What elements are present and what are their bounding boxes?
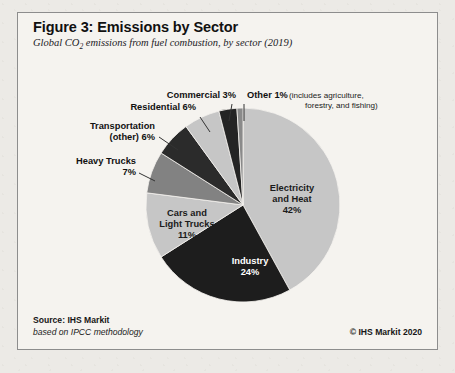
source-note: Source: IHS Markit: [33, 315, 109, 325]
slice-label: Residential 6%: [130, 102, 196, 112]
copyright-note: © IHS Markit 2020: [350, 327, 422, 337]
pie-chart-svg: Electricityand Heat42%Industry24%Cars an…: [18, 13, 439, 351]
slice-label-note: (includes agriculture,forestry, and fish…: [289, 91, 378, 110]
slice-label: Other 1%: [247, 90, 289, 100]
slice-label: Heavy Trucks7%: [76, 156, 137, 177]
figure-container: Figure 3: Emissions by Sector Global CO2…: [17, 12, 438, 350]
methodology-note: based on IPCC methodology: [33, 327, 143, 337]
slice-label: Transportation(other) 6%: [90, 121, 156, 142]
slice-label: Commercial 3%: [167, 90, 237, 100]
pie-chart: Electricityand Heat42%Industry24%Cars an…: [18, 13, 439, 351]
